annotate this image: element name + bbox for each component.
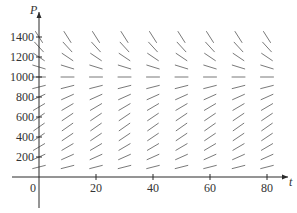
slope-segment	[261, 154, 273, 159]
x-tick-label: 20	[90, 181, 102, 195]
slope-segment	[119, 154, 131, 159]
slope-segment	[121, 32, 128, 43]
slope-segment	[147, 65, 159, 69]
y-tick-label: 600	[16, 110, 34, 124]
slope-segment	[262, 53, 273, 60]
slope-segment	[119, 123, 130, 130]
slope-segment	[118, 85, 131, 88]
slope-segment	[147, 154, 159, 159]
slope-segment	[263, 42, 272, 52]
slope-segment	[90, 85, 103, 88]
slope-segment	[148, 133, 159, 140]
slope-segment	[204, 154, 216, 159]
slope-segment	[91, 53, 102, 60]
slope-segment	[233, 123, 244, 130]
slope-segment	[234, 42, 243, 52]
slope-segment	[62, 53, 73, 60]
slope-field-segments	[33, 32, 274, 169]
slope-segment	[232, 65, 244, 69]
slope-segment	[90, 65, 102, 69]
slope-segment	[232, 85, 245, 88]
slope-segment	[204, 85, 217, 88]
slope-segment	[205, 113, 216, 120]
slope-segment	[148, 53, 159, 60]
slope-segment	[176, 154, 188, 159]
slope-segment	[176, 133, 187, 140]
x-tick-label: 40	[147, 181, 159, 195]
slope-segment	[233, 154, 245, 159]
slope-segment	[204, 165, 217, 168]
slope-segment	[62, 123, 73, 130]
slope-segment	[233, 144, 244, 151]
slope-segment	[64, 32, 71, 43]
slope-segment	[61, 165, 74, 168]
slope-segment	[150, 32, 157, 43]
axis-ticks: 20406080200400600800100012001400	[10, 30, 273, 195]
slope-segment	[61, 85, 74, 88]
slope-segment	[90, 154, 102, 159]
x-tick-label: 80	[261, 181, 273, 195]
slope-segment	[90, 104, 101, 111]
slope-segment	[61, 65, 73, 69]
y-tick-label: 1400	[10, 30, 34, 44]
x-tick-label: 60	[204, 181, 216, 195]
y-tick-label: 400	[16, 130, 34, 144]
y-tick-label: 800	[16, 90, 34, 104]
slope-segment	[175, 165, 188, 168]
slope-segment	[62, 113, 73, 120]
slope-segment	[62, 133, 73, 140]
x-axis-label: t	[289, 175, 293, 189]
y-tick-label: 1000	[10, 70, 34, 84]
slope-segment	[175, 85, 188, 88]
axes	[12, 12, 288, 208]
slope-segment	[176, 53, 187, 60]
slope-segment	[233, 53, 244, 60]
slope-segment	[93, 32, 100, 43]
axis-labels: P t 0	[29, 3, 293, 195]
slope-field-chart: 20406080200400600800100012001400 P t 0	[0, 0, 297, 213]
y-tick-label: 200	[16, 150, 34, 164]
slope-segment	[233, 104, 244, 111]
slope-segment	[147, 85, 160, 88]
slope-segment	[261, 144, 272, 151]
slope-segment	[92, 42, 101, 52]
slope-segment	[148, 113, 159, 120]
slope-segment	[207, 32, 214, 43]
y-axis-label: P	[29, 3, 38, 17]
slope-segment	[206, 42, 215, 52]
slope-segment	[118, 165, 131, 168]
slope-segment	[205, 53, 216, 60]
slope-segment	[261, 94, 273, 99]
slope-segment	[177, 42, 186, 52]
slope-segment	[149, 42, 158, 52]
y-tick-label: 1200	[10, 50, 34, 64]
slope-segment	[261, 165, 274, 168]
slope-segment	[176, 123, 187, 130]
slope-segment	[147, 104, 158, 111]
slope-segment	[176, 113, 187, 120]
slope-segment	[205, 133, 216, 140]
slope-segment	[264, 32, 271, 43]
slope-segment	[147, 94, 159, 99]
origin-label: 0	[30, 181, 36, 195]
slope-segment	[262, 113, 273, 120]
slope-segment	[118, 65, 130, 69]
slope-segment	[204, 65, 216, 69]
slope-segment	[62, 144, 73, 151]
slope-segment	[147, 165, 160, 168]
slope-segment	[91, 133, 102, 140]
slope-segment	[233, 113, 244, 120]
slope-segment	[204, 144, 215, 151]
slope-segment	[233, 94, 245, 99]
slope-segment	[176, 144, 187, 151]
slope-segment	[62, 94, 74, 99]
slope-segment	[147, 144, 158, 151]
slope-segment	[204, 94, 216, 99]
slope-segment	[262, 123, 273, 130]
slope-segment	[119, 113, 130, 120]
slope-segment	[175, 65, 187, 69]
slope-segment	[90, 144, 101, 151]
slope-segment	[205, 123, 216, 130]
slope-segment	[262, 133, 273, 140]
slope-segment	[119, 144, 130, 151]
